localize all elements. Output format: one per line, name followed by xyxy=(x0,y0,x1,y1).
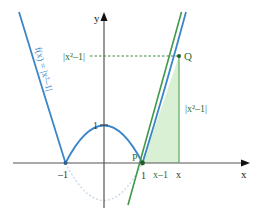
point-label-P: P xyxy=(132,152,138,163)
point-neg1 xyxy=(64,161,68,165)
point-label-Q: Q xyxy=(184,50,192,62)
x-axis-arrow-icon xyxy=(241,160,250,167)
point-Q xyxy=(177,54,181,58)
function-label: f(x) = |x²–1| xyxy=(32,46,54,93)
segment-label-horizontal: x–1 xyxy=(153,169,168,180)
tick-label-y1: 1 xyxy=(93,120,98,131)
segment-label-vertical: |x²–1| xyxy=(185,103,207,114)
diagram-canvas: y x –1 1 1 x P Q x–1 |x²–1| |x²–1| f(x) … xyxy=(0,0,263,216)
tick-label-neg1: –1 xyxy=(57,169,68,180)
y-axis-label: y xyxy=(94,12,100,24)
point-P xyxy=(140,161,145,166)
dashed-guide-label: |x²–1| xyxy=(63,51,85,62)
x-axis-label: x xyxy=(241,168,247,180)
tick-label-pos1: 1 xyxy=(141,170,146,181)
tick-label-x: x xyxy=(176,169,181,180)
y-axis-arrow-icon xyxy=(101,12,108,21)
